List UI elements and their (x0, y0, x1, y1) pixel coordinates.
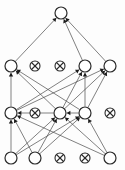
edge-line (63, 72, 82, 107)
graph-node-n6[interactable] (5, 107, 17, 119)
edge-line (17, 117, 80, 155)
open-circle-node-icon (104, 152, 116, 164)
arrow-head-icon (18, 111, 22, 115)
arrow-head-icon (9, 73, 13, 77)
open-circle-node-icon (55, 7, 67, 19)
edge-line (66, 18, 106, 61)
graph-node-n4[interactable] (79, 60, 91, 72)
graph-canvas (0, 0, 125, 170)
graph-node-n5[interactable] (104, 60, 116, 72)
edge-line (88, 72, 107, 107)
arrow-head-icon (9, 120, 13, 124)
edges-group (11, 18, 107, 155)
open-circle-node-icon (5, 60, 17, 72)
edge-line (40, 118, 80, 154)
open-circle-node-icon (79, 60, 91, 72)
edge-line (16, 71, 55, 109)
graph-figure (0, 0, 125, 170)
graph-node-n15[interactable] (104, 152, 116, 164)
graph-node-n0[interactable] (55, 7, 67, 19)
graph-node-n1[interactable] (5, 60, 17, 72)
graph-node-n12[interactable] (29, 152, 41, 164)
graph-node-n7[interactable] (30, 108, 40, 118)
graph-node-n13[interactable] (55, 153, 65, 163)
open-circle-node-icon (104, 60, 116, 72)
arrow-head-icon (67, 111, 71, 115)
graph-node-n8[interactable] (54, 107, 66, 119)
open-circle-node-icon (54, 107, 66, 119)
graph-node-n14[interactable] (80, 153, 90, 163)
open-circle-node-icon (5, 152, 17, 164)
graph-node-n10[interactable] (105, 108, 115, 118)
edge-line (65, 118, 105, 154)
edge-line (64, 19, 83, 60)
graph-node-n2[interactable] (30, 61, 40, 71)
graph-node-n9[interactable] (79, 107, 91, 119)
edge-line (15, 18, 56, 61)
graph-node-n3[interactable] (55, 61, 65, 71)
edge-line (88, 119, 107, 152)
edge-line (16, 118, 55, 154)
edge-line (17, 69, 104, 110)
graph-node-n11[interactable] (5, 152, 17, 164)
open-circle-node-icon (29, 152, 41, 164)
open-circle-node-icon (79, 107, 91, 119)
arrow-head-icon (83, 73, 87, 77)
open-circle-node-icon (5, 107, 17, 119)
